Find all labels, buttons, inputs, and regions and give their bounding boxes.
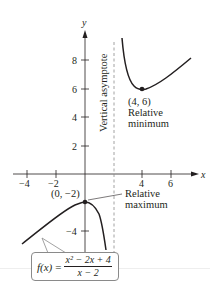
equals-sign: = (55, 261, 61, 273)
relative-minimum-point (140, 87, 145, 92)
x-axis-arrow-icon (191, 172, 199, 177)
x-axis-label: x (200, 169, 206, 180)
y-tick-2: 2 (72, 141, 77, 152)
y-axis-label: y (81, 17, 87, 28)
y-tick-neg4: −4 (66, 226, 77, 237)
vertical-asymptote-label: Vertical asymptote (98, 53, 109, 132)
x-tick-6: 6 (168, 178, 173, 189)
max-label-line1: Relative (125, 188, 160, 199)
y-tick-4: 4 (72, 112, 77, 123)
max-label-line2: maximum (125, 199, 168, 210)
y-tick-6: 6 (72, 84, 77, 95)
y-axis-arrow-icon (83, 30, 88, 38)
fraction: x² − 2x + 4 x − 2 (64, 255, 111, 278)
denominator: x − 2 (78, 267, 99, 278)
x-axis: x −4 −2 4 6 (13, 169, 206, 189)
function-callout: f(x) = x² − 2x + 4 x − 2 (31, 252, 119, 281)
curve-right-branch (122, 38, 191, 90)
y-tick-8: 8 (72, 55, 77, 66)
x-tick-neg4: −4 (19, 178, 30, 189)
max-leader-line (88, 194, 122, 200)
min-label-line2: minimum (128, 118, 169, 129)
max-point-label: (0, −2) (51, 188, 80, 200)
curve-left-branch (22, 202, 106, 250)
relative-maximum-point (83, 200, 88, 205)
function-name: f(x) (37, 261, 52, 273)
chart: y 8 6 4 2 −4 x −4 −2 4 6 Vertical asympt… (0, 0, 210, 291)
callout-pointer (42, 238, 66, 253)
numerator: x² − 2x + 4 (64, 255, 111, 267)
min-label-line1: Relative (128, 107, 163, 118)
y-axis: y 8 6 4 2 −4 (66, 17, 89, 265)
